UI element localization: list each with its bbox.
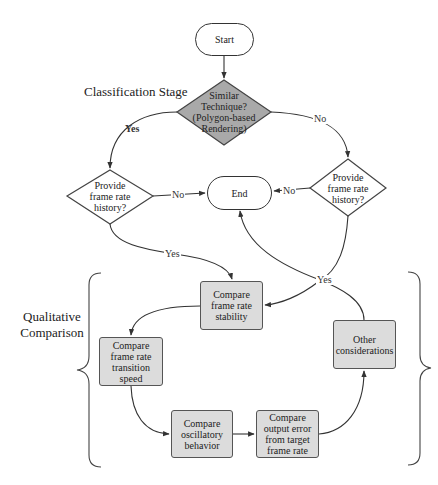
flowchart-canvas: Classification Stage Qualitative Compari… — [0, 0, 438, 485]
similar-technique-label: Similar Technique? (Polygon-based Render… — [179, 90, 269, 134]
edge-label-similar-yes: Yes — [124, 124, 140, 134]
edge-label-right-no: No — [282, 186, 296, 196]
stability-line3: stability — [215, 311, 247, 322]
history-right-label: Provide frame rate history? — [310, 172, 386, 205]
history-right-line1: Provide — [310, 172, 386, 183]
qualitative-comparison-label: Qualitative Comparison — [20, 309, 84, 341]
similar-line1: Similar — [179, 90, 269, 101]
history-right-line2: frame rate — [310, 183, 386, 194]
oscillatory-line2: oscillatory — [181, 429, 223, 440]
left-brace — [77, 273, 101, 467]
history-left-line1: Provide — [70, 180, 150, 191]
history-left-label: Provide frame rate history? — [70, 180, 150, 213]
compare-transition-box: Compare frame rate transition speed — [99, 337, 163, 386]
history-left-line3: history? — [70, 202, 150, 213]
output-error-line3: from target — [265, 434, 310, 445]
end-node: End — [207, 176, 272, 210]
other-line1: Other — [353, 334, 376, 345]
edge-label-right-yes: Yes — [316, 275, 333, 285]
transition-line2: frame rate — [111, 351, 152, 362]
edge-label-similar-no: No — [313, 114, 327, 124]
end-label: End — [231, 188, 247, 199]
oscillatory-line1: Compare — [184, 418, 221, 429]
qualitative-label-line2: Comparison — [20, 325, 84, 341]
classification-stage-label: Classification Stage — [84, 84, 188, 100]
edge-similar-yes — [110, 112, 177, 168]
transition-line1: Compare — [113, 340, 150, 351]
edge-transition-to-oscillatory — [131, 386, 169, 434]
qualitative-label-line1: Qualitative — [20, 309, 84, 325]
edge-label-left-yes: Yes — [164, 249, 181, 259]
stability-line2: frame rate — [211, 300, 252, 311]
similar-line4: Rendering) — [179, 123, 269, 134]
compare-oscillatory-box: Compare oscillatory behavior — [171, 410, 233, 458]
output-error-line4: frame rate — [267, 445, 308, 456]
other-line2: considerations — [336, 345, 394, 356]
edge-label-left-no: No — [171, 190, 185, 200]
output-error-line1: Compare — [269, 412, 306, 423]
oscillatory-line3: behavior — [185, 440, 220, 451]
right-brace — [408, 272, 431, 465]
similar-line3: (Polygon-based — [179, 112, 269, 123]
other-considerations-box: Other considerations — [333, 320, 396, 369]
edge-stability-to-transition — [131, 306, 200, 335]
start-node: Start — [195, 23, 254, 56]
transition-line4: speed — [120, 373, 143, 384]
stability-line1: Compare — [213, 289, 250, 300]
edge-similar-no — [271, 112, 348, 157]
transition-line3: transition — [112, 362, 150, 373]
history-right-line3: history? — [310, 194, 386, 205]
similar-line2: Technique? — [179, 101, 269, 112]
compare-stability-box: Compare frame rate stability — [200, 281, 263, 330]
history-left-line2: frame rate — [70, 191, 150, 202]
compare-output-error-box: Compare output error from target frame r… — [256, 410, 319, 458]
output-error-line2: output error — [264, 423, 312, 434]
start-label: Start — [215, 34, 234, 45]
edge-output-to-other — [319, 371, 364, 434]
